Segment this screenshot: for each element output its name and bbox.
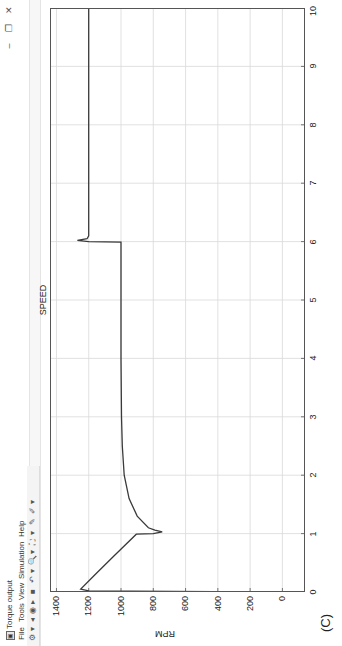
close-button[interactable]: ✕ [4, 4, 15, 16]
cursor-measure-icon[interactable]: ✎ [28, 517, 38, 526]
settings-dropdown-icon[interactable]: ▾ [28, 624, 38, 633]
y-axis-label: RPM [145, 629, 185, 639]
highlight-icon[interactable]: ↶ [28, 575, 38, 584]
x-tick-label: 8 [308, 117, 318, 133]
plot-frame [50, 8, 305, 592]
y-tick-label: 200 [245, 596, 255, 628]
menu-help[interactable]: Help [16, 521, 27, 537]
y-tick-label: 600 [180, 596, 190, 628]
menu-simulation[interactable]: Simulation [16, 542, 27, 579]
x-tick-label: 7 [308, 175, 318, 191]
x-tick-label: 9 [308, 58, 318, 74]
y-tick-label: 400 [213, 596, 223, 628]
zoom-dropdown-icon[interactable]: ▾ [28, 547, 38, 556]
app-icon: ▣ [6, 631, 15, 640]
style-dropdown-icon[interactable]: ▾ [28, 497, 38, 506]
window-title: Torque output [4, 580, 15, 629]
x-tick-label: 3 [308, 409, 318, 425]
panel-label: (C) [318, 614, 333, 632]
settings-icon[interactable]: ⚙ [28, 633, 38, 642]
y-tick-label: 1000 [116, 596, 126, 628]
zoom-icon[interactable]: 🔍 [28, 556, 38, 565]
fit-icon[interactable]: ⛶ [28, 537, 38, 546]
y-tick-label: 800 [148, 596, 158, 628]
restore-button[interactable]: ❐ [4, 22, 15, 34]
step-back-icon[interactable]: ◂ [28, 615, 38, 624]
x-tick-label: 1 [308, 526, 318, 542]
x-tick-label: 4 [308, 350, 318, 366]
x-tick-label: 10 [308, 3, 318, 19]
x-tick-label: 6 [308, 234, 318, 250]
scope-window: ▣ Torque output – ❐ ✕ File Tools View Si… [0, 0, 342, 646]
run-icon[interactable]: ◉ [28, 606, 38, 615]
minimize-button[interactable]: – [4, 40, 15, 52]
x-tick-label: 5 [308, 292, 318, 308]
plot-title: SPEED [38, 254, 48, 346]
x-tick-label: 2 [308, 467, 318, 483]
menu-bar: File Tools View Simulation Help [16, 0, 27, 646]
x-tick-label: 0 [308, 584, 318, 600]
highlight-dropdown-icon[interactable]: ▾ [28, 566, 38, 575]
y-tick-label: 1200 [83, 596, 93, 628]
step-forward-icon[interactable]: ▸ [28, 597, 38, 606]
title-bar: ▣ Torque output – ❐ ✕ [4, 0, 16, 646]
menu-view[interactable]: View [16, 583, 27, 600]
style-icon[interactable]: ✐ [28, 506, 38, 515]
menu-tools[interactable]: Tools [16, 603, 27, 622]
stop-icon[interactable]: ■ [28, 587, 38, 596]
y-tick-label: 1400 [51, 596, 61, 628]
y-tick-label: 0 [277, 596, 287, 628]
fit-dropdown-icon[interactable]: ▾ [28, 528, 38, 537]
toolbar: ⚙ ▾ ◂ ◉ ▸ ■ ↶ ▾ 🔍 ▾ ⛶ ▾ ✎ ✐ ▾ [27, 466, 40, 646]
menu-file[interactable]: File [16, 627, 27, 640]
